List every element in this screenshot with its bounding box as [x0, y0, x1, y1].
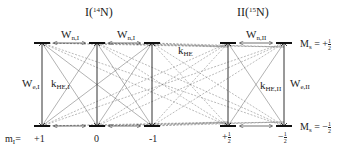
w-n-II-label: Wn,II [246, 29, 266, 42]
m-I-label: mI= [5, 134, 21, 146]
w-n-I-label-2: Wn,I [117, 29, 135, 42]
transition-lines [42, 43, 284, 126]
ms-lower-label: Ms = −12 [300, 121, 331, 134]
ms-upper-label: Ms = +12 [300, 38, 331, 51]
level-label-plus-half: +12 [222, 131, 231, 144]
level-label-0: 0 [94, 134, 99, 144]
system-II-title: II(15N) [237, 6, 269, 18]
k-he-II-label: kHE,II [260, 80, 281, 93]
level-label-minus-half: −12 [278, 131, 287, 144]
level-label-plus1: +1 [34, 134, 45, 144]
level-label-minus1: -1 [149, 134, 157, 144]
k-he-I-label: kHE,I [51, 78, 70, 91]
w-e-I-label: We,I [22, 78, 40, 91]
w-e-II-label: We,II [290, 78, 310, 91]
k-he-label: kHE [178, 45, 193, 58]
system-I-title: I(14N) [85, 6, 113, 18]
w-n-I-label-1: Wn,I [61, 29, 79, 42]
